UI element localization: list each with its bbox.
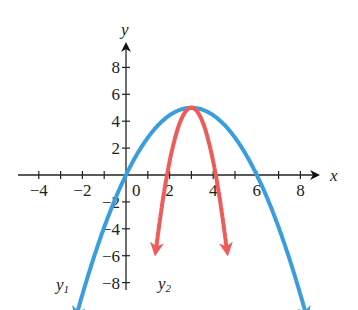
x-axis-label: x xyxy=(329,166,338,185)
y-tick-label: −8 xyxy=(102,274,120,293)
x-tick-label: 8 xyxy=(296,181,305,200)
y1-label: y1 xyxy=(54,275,69,295)
x-tick-label: −2 xyxy=(73,181,91,200)
y-axis: −8−6−4−22468 xyxy=(102,44,130,293)
y-tick-label: 4 xyxy=(112,112,121,131)
x-tick-label: −4 xyxy=(30,181,49,200)
y-tick-label: 8 xyxy=(112,58,121,77)
x-tick-label: 0 xyxy=(132,181,141,200)
chart: −4−202468 −8−6−4−22468 x y y1 y2 xyxy=(0,0,358,310)
y2-curve xyxy=(191,108,226,246)
y2-curve xyxy=(157,108,192,246)
y-tick-label: 2 xyxy=(112,139,121,158)
y-tick-label: 6 xyxy=(112,85,121,104)
y-axis-label: y xyxy=(119,20,129,39)
y2-label: y2 xyxy=(156,274,172,294)
y-tick-label: −6 xyxy=(102,247,120,266)
